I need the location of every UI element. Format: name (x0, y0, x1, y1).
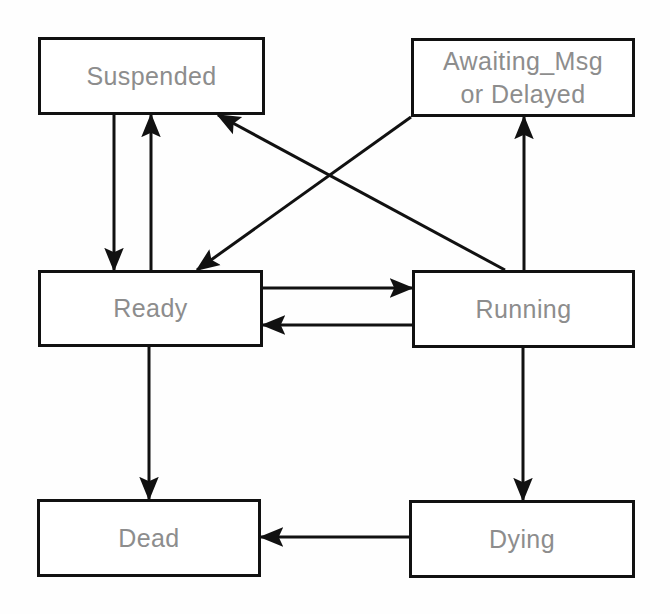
state-diagram: SuspendedAwaiting_Msgor DelayedReadyRunn… (0, 0, 670, 614)
state-box-running[interactable] (414, 272, 634, 347)
state-box-ready[interactable] (40, 272, 262, 346)
diagram-vector-layer (0, 0, 670, 614)
state-box-dead[interactable] (39, 501, 260, 576)
state-box-awaiting[interactable] (413, 40, 634, 116)
state-box-suspended[interactable] (40, 39, 264, 114)
state-box-dying[interactable] (411, 502, 634, 577)
edge-running-to-suspended (218, 115, 505, 270)
edge-awaiting-to-ready (197, 117, 411, 270)
node-box-layer (39, 39, 634, 577)
